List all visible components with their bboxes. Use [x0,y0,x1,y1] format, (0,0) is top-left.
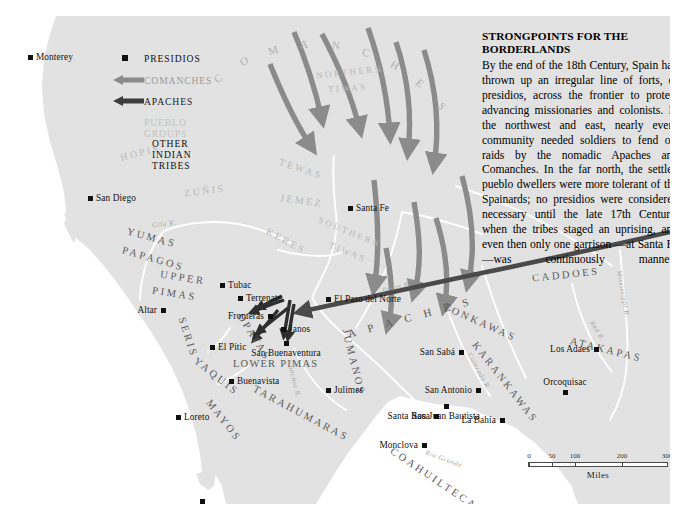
comanche-arrow-icon [112,73,146,87]
city-label: Julimes [334,386,363,395]
city-label: Monterey [36,53,73,62]
presidio-marker [229,379,234,384]
presidio-marker [238,296,243,301]
presidio-marker [594,347,599,352]
scale-tick-50: 50 [549,452,556,460]
info-panel: STRONGPOINTS FOR THE BORDERLANDS By the … [482,30,670,268]
city-label: San Diego [96,194,136,203]
city-label: Tubac [228,281,251,290]
city-label: Orcoquisac [543,378,586,387]
city-label: Fronteras [228,312,264,321]
scale-tick-300: 300 [662,452,670,460]
city-label: Buenavista [237,377,279,386]
presidio-marker [444,404,449,409]
city-label: Monclova [380,441,419,450]
presidio-square-icon [122,55,128,61]
presidio-marker [476,388,481,393]
city-label: Los Adaes [550,345,590,354]
city-label: Terrenate [246,294,282,303]
scale-unit-label: Miles [528,470,668,480]
presidio-marker [326,388,331,393]
presidio-marker [210,345,215,350]
apache-arrow-icon [112,94,146,108]
panel-body: By the end of the 18th Century, Spain ha… [482,59,670,267]
city-label: La Bahía [461,416,496,425]
legend-label-presidios: PRESIDIOS [144,53,201,64]
scale-tick-200: 200 [617,452,628,460]
city-label: Janos [289,325,310,334]
presidio-marker [500,418,505,423]
legend-label-pueblo-groups: PUEBLO GROUPS [144,117,187,139]
legend-label-comanches: COMANCHES [144,75,212,86]
city-label: Santa Rosa [387,412,430,421]
city-label: San Buenaventura [251,349,321,358]
presidio-marker [28,55,33,60]
presidio-marker [220,283,225,288]
presidio-marker [161,308,166,313]
city-label: Loreto [184,413,209,422]
city-label: Altar [137,306,157,315]
presidio-marker [88,196,93,201]
city-label: El Paso del Norte [334,295,401,304]
presidio-marker [434,414,439,419]
presidio-marker [281,327,286,332]
scale-bar-track [528,462,668,467]
presidio-marker [268,314,273,319]
city-label: San Antonio [425,386,472,395]
presidio-marker [459,350,464,355]
presidio-marker [200,499,205,504]
legend-label-other-tribes: OTHER INDIAN TRIBES [152,138,192,171]
presidio-marker [284,341,289,346]
presidio-marker [348,206,353,211]
map-canvas: PRESIDIOS COMANCHES APACHES PUEBLO GROUP… [16,16,670,504]
scale-tick-100: 100 [570,452,581,460]
map-screenshot: PRESIDIOS COMANCHES APACHES PUEBLO GROUP… [0,0,684,520]
presidio-marker [563,390,568,395]
scale-tick-0: 0 [527,452,531,460]
tribe-label-lower-pimas: LOWER PIMAS [233,359,318,370]
presidio-marker [176,415,181,420]
city-label: Santa Fe [356,204,389,213]
city-label: San Sabá [420,348,455,357]
panel-title: STRONGPOINTS FOR THE BORDERLANDS [482,30,670,56]
scale-bar: 0 50 100 200 300 Miles [528,462,668,467]
legend-label-apaches: APACHES [144,96,193,107]
presidio-marker [422,443,427,448]
city-label: El Pitic [218,343,246,352]
presidio-marker [326,297,331,302]
